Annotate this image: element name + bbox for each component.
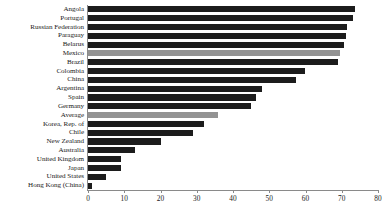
bar xyxy=(88,121,204,127)
bar xyxy=(88,165,121,171)
bar-row xyxy=(88,137,378,146)
bar-row xyxy=(88,146,378,155)
category-label: Chile xyxy=(0,128,84,137)
bar-row xyxy=(88,164,378,173)
bar-row xyxy=(88,120,378,129)
bar xyxy=(88,86,262,92)
bar-row xyxy=(88,128,378,137)
x-tick-mark xyxy=(124,190,125,193)
bar xyxy=(88,156,121,162)
category-label: Belarus xyxy=(0,40,84,49)
bar-row xyxy=(88,111,378,120)
bar-row xyxy=(88,75,378,84)
x-tick-mark xyxy=(378,190,379,193)
bar xyxy=(88,174,106,180)
x-tick-label: 20 xyxy=(149,194,173,203)
bar-row xyxy=(88,5,378,14)
category-label: Korea, Rep. of xyxy=(0,120,84,129)
bar xyxy=(88,112,218,118)
bar xyxy=(88,6,355,12)
category-label: Angola xyxy=(0,5,84,14)
bar-rows xyxy=(88,5,378,190)
category-axis-labels: AngolaPortugalRussian FederationParaguay… xyxy=(0,5,86,190)
x-tick-mark xyxy=(161,190,162,193)
bar xyxy=(88,50,340,56)
bar-row xyxy=(88,58,378,67)
bar xyxy=(88,130,193,136)
x-tick-mark xyxy=(197,190,198,193)
x-tick-label: 0 xyxy=(76,194,100,203)
category-label: Portugal xyxy=(0,14,84,23)
x-tick-label: 70 xyxy=(330,194,354,203)
bar xyxy=(88,24,347,30)
bar-row xyxy=(88,14,378,23)
category-label: Argentina xyxy=(0,84,84,93)
bar-row xyxy=(88,31,378,40)
x-tick-label: 40 xyxy=(221,194,245,203)
bar-chart: AngolaPortugalRussian FederationParaguay… xyxy=(0,0,388,221)
category-label: Mexico xyxy=(0,49,84,58)
bar xyxy=(88,138,161,144)
x-tick-label: 60 xyxy=(294,194,318,203)
bar-row xyxy=(88,67,378,76)
category-label: Brazil xyxy=(0,58,84,67)
bar-row xyxy=(88,93,378,102)
category-label: United States xyxy=(0,172,84,181)
bar xyxy=(88,42,344,48)
bar xyxy=(88,59,338,65)
x-tick-label: 30 xyxy=(185,194,209,203)
category-label: Australia xyxy=(0,146,84,155)
bar xyxy=(88,33,346,39)
category-label: New Zealand xyxy=(0,137,84,146)
category-label: Germany xyxy=(0,102,84,111)
bar xyxy=(88,147,135,153)
category-label: United Kingdom xyxy=(0,155,84,164)
bar-row xyxy=(88,40,378,49)
bar-row xyxy=(88,84,378,93)
category-label: Spain xyxy=(0,93,84,102)
bar xyxy=(88,68,305,74)
x-tick-mark xyxy=(233,190,234,193)
category-label: Average xyxy=(0,111,84,120)
category-label: Japan xyxy=(0,164,84,173)
bar-row xyxy=(88,102,378,111)
bar xyxy=(88,77,296,83)
x-tick-mark xyxy=(269,190,270,193)
x-tick-mark xyxy=(306,190,307,193)
x-tick-mark xyxy=(88,190,89,193)
x-tick-label: 50 xyxy=(257,194,281,203)
plot-area xyxy=(88,5,378,190)
bar xyxy=(88,15,353,21)
x-tick-label: 80 xyxy=(366,194,388,203)
category-label: Russian Federation xyxy=(0,23,84,32)
bar-row xyxy=(88,181,378,190)
bar-row xyxy=(88,155,378,164)
y-axis-line xyxy=(87,5,88,191)
x-tick-label: 10 xyxy=(112,194,136,203)
bar xyxy=(88,183,92,189)
bar-row xyxy=(88,172,378,181)
category-label: China xyxy=(0,75,84,84)
category-label: Hong Kong (China) xyxy=(0,181,84,190)
bar-row xyxy=(88,23,378,32)
x-tick-mark xyxy=(342,190,343,193)
bar xyxy=(88,94,256,100)
bar-row xyxy=(88,49,378,58)
category-label: Colombia xyxy=(0,67,84,76)
bar xyxy=(88,103,251,109)
category-label: Paraguay xyxy=(0,31,84,40)
